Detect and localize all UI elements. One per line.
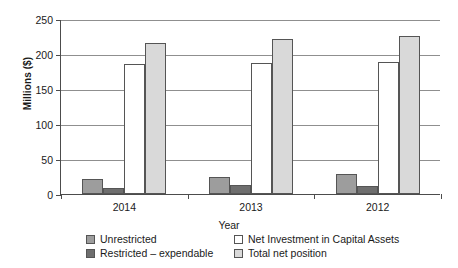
legend-item-label: Restricted – expendable [100, 247, 213, 259]
y-tick-mark-200 [56, 55, 61, 56]
bar-2013-net-investment-in-capital-assets [251, 63, 272, 194]
legend-item-net-investment[interactable]: Net Investment in Capital Assets [234, 232, 399, 246]
bar-2013-unrestricted [209, 177, 230, 195]
y-tick-mark-50 [56, 160, 61, 161]
x-tick-mark-2014 [61, 194, 62, 199]
bar-2014-net-investment-in-capital-assets [124, 64, 145, 194]
x-tick-mark-end [441, 194, 442, 199]
bar-2012-unrestricted [336, 174, 357, 194]
net-investment-swatch-icon [234, 235, 243, 244]
y-tick-label-150: 150 [35, 84, 53, 96]
bar-2012-total-net-position [399, 36, 420, 194]
net-position-bar-chart: Millions ($) 050100150200250201420132012… [0, 0, 458, 268]
bar-2013-restricted-expendable [230, 185, 251, 194]
legend-item-label: Total net position [248, 247, 327, 259]
bar-2014-unrestricted [82, 179, 103, 194]
bar-2014-total-net-position [145, 43, 166, 194]
bar-2012-net-investment-in-capital-assets [378, 62, 399, 194]
y-tick-label-0: 0 [47, 189, 53, 201]
x-tick-label-2012: 2012 [366, 201, 389, 213]
x-tick-mark-2013 [188, 194, 189, 199]
y-tick-mark-150 [56, 90, 61, 91]
x-tick-label-2014: 2014 [113, 201, 136, 213]
restricted-swatch-icon [86, 249, 95, 258]
y-tick-mark-100 [56, 125, 61, 126]
x-axis-title: Year [0, 219, 458, 231]
legend-item-restricted[interactable]: Restricted – expendable [86, 246, 228, 260]
total-net-position-swatch-icon [234, 249, 243, 258]
bar-2014-restricted-expendable [103, 188, 124, 194]
plot-area: 050100150200250201420132012 [60, 20, 440, 195]
legend-item-label: Net Investment in Capital Assets [248, 233, 399, 245]
bar-2013-total-net-position [272, 39, 293, 194]
legend-item-unrestricted[interactable]: Unrestricted [86, 232, 228, 246]
bar-2012-restricted-expendable [357, 186, 378, 194]
legend-item-total-net-position[interactable]: Total net position [234, 246, 399, 260]
y-tick-label-100: 100 [35, 119, 53, 131]
chart-legend: UnrestrictedNet Investment in Capital As… [86, 232, 399, 260]
y-tick-label-200: 200 [35, 49, 53, 61]
legend-item-label: Unrestricted [100, 233, 157, 245]
y-tick-label-50: 50 [41, 154, 53, 166]
x-tick-mark-2012 [314, 194, 315, 199]
y-axis-title: Millions ($) [22, 29, 33, 139]
gridline-250 [61, 20, 440, 21]
unrestricted-swatch-icon [86, 235, 95, 244]
gridline-200 [61, 55, 440, 56]
y-tick-label-250: 250 [35, 14, 53, 26]
x-tick-label-2013: 2013 [239, 201, 262, 213]
y-tick-mark-250 [56, 20, 61, 21]
